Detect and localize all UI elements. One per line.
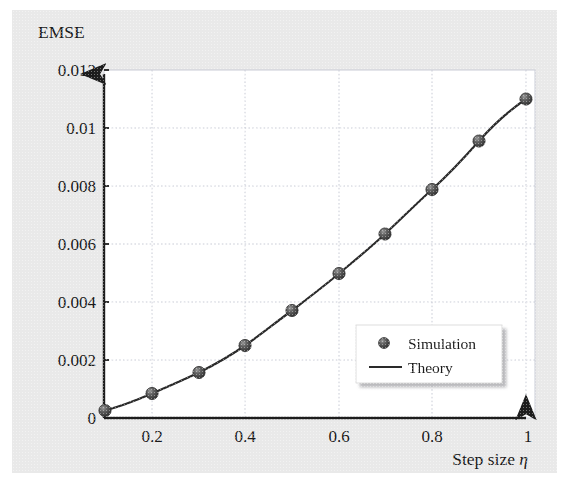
data-point: [99, 404, 111, 416]
legend-label-theory: Theory: [408, 359, 453, 376]
data-point: [193, 366, 205, 378]
data-point: [520, 93, 532, 105]
x-tick-label: 0.6: [328, 427, 349, 446]
data-point: [473, 135, 485, 147]
y-tick-label: 0.012: [58, 61, 96, 80]
y-tick-label: 0: [88, 409, 97, 428]
legend-marker-simulation-icon: [379, 338, 390, 349]
y-tick-label: 0.002: [58, 351, 96, 370]
x-tick-label: 0.8: [421, 427, 442, 446]
x-tick-label: 1: [524, 427, 533, 446]
eta-symbol: η: [519, 449, 528, 469]
x-axis-title-text: Step size: [452, 449, 519, 469]
x-axis-title: Step size η: [452, 449, 528, 469]
data-point: [286, 304, 298, 316]
data-point: [146, 387, 158, 399]
y-tick-label: 0.008: [58, 177, 96, 196]
legend-label-simulation: Simulation: [408, 335, 476, 352]
figure-panel: EMSE 0.012 0.01 0.008 0.006 0.004 0.002 …: [12, 10, 557, 473]
y-tick-label: 0.006: [58, 235, 96, 254]
y-tick-label: 0.004: [58, 293, 97, 312]
data-point: [333, 267, 345, 279]
x-tick-label: 0.4: [234, 427, 256, 446]
legend: Simulation Theory: [356, 325, 502, 383]
data-point: [426, 183, 438, 195]
x-tick-label: 0.2: [141, 427, 162, 446]
y-axis-title: EMSE: [38, 22, 85, 42]
y-tick-label: 0.01: [66, 119, 96, 138]
data-point: [239, 339, 251, 351]
emse-vs-step-size-chart: EMSE 0.012 0.01 0.008 0.006 0.004 0.002 …: [12, 10, 557, 473]
data-point: [379, 228, 391, 240]
